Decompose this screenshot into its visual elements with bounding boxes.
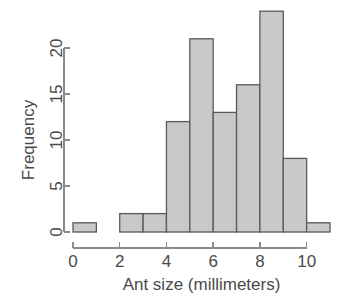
histogram-bar: [307, 223, 330, 232]
histogram-bar: [237, 85, 260, 232]
histogram-bar: [166, 122, 189, 232]
histogram-bar: [283, 158, 306, 232]
histogram-bar: [73, 223, 96, 232]
histogram-figure: 024681005101520FrequencyAnt size (millim…: [0, 0, 346, 308]
x-axis-title: Ant size (millimeters): [123, 275, 281, 294]
x-axis: 0246810: [68, 242, 316, 271]
x-axis-tick-label: 10: [297, 252, 316, 271]
x-axis-tick-label: 6: [208, 252, 217, 271]
y-axis-tick-label: 5: [47, 181, 66, 190]
y-axis-tick-label: 0: [47, 227, 66, 236]
x-axis-tick-label: 4: [162, 252, 171, 271]
x-axis-tick-label: 0: [68, 252, 77, 271]
y-axis-title: Frequency: [19, 99, 38, 180]
histogram-bar: [120, 214, 143, 232]
histogram-bar: [213, 112, 236, 232]
x-axis-tick-label: 8: [255, 252, 264, 271]
y-axis: 05101520: [47, 39, 71, 237]
histogram-bar: [190, 39, 213, 232]
histogram-bar: [260, 11, 283, 232]
histogram-bar: [143, 214, 166, 232]
bars-group: [73, 11, 330, 232]
x-axis-tick-label: 2: [115, 252, 124, 271]
ant-size-histogram-plot: 024681005101520FrequencyAnt size (millim…: [0, 0, 346, 308]
y-axis-tick-label: 15: [47, 85, 66, 104]
y-axis-tick-label: 10: [47, 131, 66, 150]
y-axis-tick-label: 20: [47, 39, 66, 58]
